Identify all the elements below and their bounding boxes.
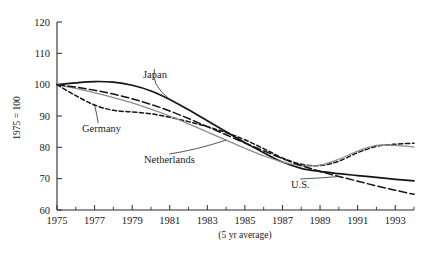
x-tick-label: 1977	[84, 215, 105, 226]
series-curves	[57, 81, 414, 194]
y-tick-label: 60	[40, 205, 51, 216]
x-tick-label: 1979	[122, 215, 143, 226]
x-axis-ticks: 1975197719791981198319851987198919911993	[47, 205, 415, 226]
x-tick-label: 1991	[347, 215, 368, 226]
y-axis-ticks: 12011010090807060	[34, 17, 62, 216]
series-label-netherlands: Netherlands	[144, 154, 195, 165]
x-tick-label: 1975	[47, 215, 68, 226]
leader-line-netherlands	[169, 140, 226, 154]
x-tick-label: 1987	[272, 215, 293, 226]
series-label-japan: Japan	[143, 69, 168, 80]
y-axis-title-group: 1975 = 100	[12, 96, 22, 140]
y-tick-label: 100	[34, 79, 50, 90]
y-tick-label: 110	[35, 48, 50, 59]
chart-figure: 1975 = 100 12011010090807060 19751977197…	[0, 0, 439, 256]
x-axis-title: (5 yr average)	[218, 230, 271, 241]
y-tick-label: 70	[40, 173, 51, 184]
series-label-us: U.S.	[291, 179, 310, 190]
y-tick-label: 120	[34, 17, 50, 28]
x-tick-label: 1983	[197, 215, 218, 226]
y-tick-label: 90	[40, 111, 51, 122]
series-line-us	[57, 85, 414, 195]
series-label-germany: Germany	[82, 123, 122, 134]
x-tick-label: 1981	[159, 215, 180, 226]
x-tick-label: 1985	[234, 215, 255, 226]
x-tick-label: 1989	[310, 215, 331, 226]
line-chart: 1975 = 100 12011010090807060 19751977197…	[0, 0, 439, 256]
y-tick-label: 80	[40, 142, 51, 153]
leader-line-germany	[95, 105, 99, 123]
y-axis-title: 1975 = 100	[12, 96, 22, 140]
x-tick-label: 1993	[385, 215, 406, 226]
series-annotations: JapanGermanyNetherlandsU.S.	[82, 69, 310, 190]
